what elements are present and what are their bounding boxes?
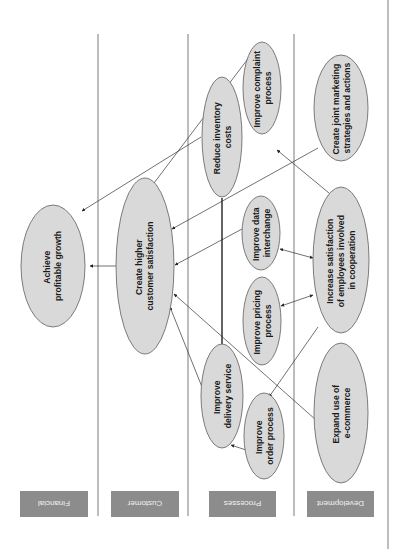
lane-label-text: Development xyxy=(316,499,364,508)
lane-label-text: Financial xyxy=(38,499,70,508)
node-achieve-growth: Achieve profitable growth xyxy=(21,205,85,327)
node-text-line: Improve xyxy=(254,420,264,454)
node-text-line: order process xyxy=(265,407,275,465)
node-improve-delivery: Improve delivery service xyxy=(201,344,243,448)
edge-employee-data xyxy=(280,249,313,258)
node-text-line: Create higher xyxy=(134,239,144,295)
node-improve-complaint: Improve complaint process xyxy=(243,42,281,134)
svg-text:Expand use of e-commerce: Expand use of e-commerce xyxy=(331,382,352,443)
svg-text:Create joint marketing s: Create joint marketing strategies and ac… xyxy=(331,61,352,154)
node-text-line: Create joint marketing xyxy=(331,64,341,155)
lane-label-text: Processes xyxy=(224,499,261,508)
node-joint-marketing: Create joint marketing strategies and ac… xyxy=(314,55,368,161)
edge-order-to-delivery xyxy=(231,445,246,450)
node-text-line: e-commerce xyxy=(342,387,352,438)
node-customer-satisfaction: Create higher customer satisfaction xyxy=(116,178,174,354)
edge-employee-pricing xyxy=(281,295,313,306)
node-text-line: Improve xyxy=(212,380,222,414)
node-text-line: Improve data xyxy=(251,207,261,261)
node-text-line: profitable growth xyxy=(53,231,63,301)
node-text-line: strategies and actions xyxy=(342,62,352,153)
node-ecommerce: Expand use of e-commerce xyxy=(314,343,368,483)
node-text-line: Achieve xyxy=(42,250,52,283)
node-text-line: Improve pricing xyxy=(252,290,262,354)
lane-label-processes: Processes xyxy=(209,491,276,517)
edge-delivery-to-customer xyxy=(170,307,202,387)
lane-label-customer: Customer xyxy=(111,491,179,517)
node-reduce-inventory: Reduce inventory costs xyxy=(202,77,242,197)
node-text-line: in cooperation xyxy=(347,230,357,289)
lane-label-financial: Financial xyxy=(20,491,88,517)
node-text-line: delivery service xyxy=(223,364,233,429)
node-text-line: Reduce inventory xyxy=(212,102,222,174)
lane-label-text: Customer xyxy=(127,499,162,508)
node-text-line: Expand use of xyxy=(331,385,341,444)
node-improve-data: Improve data interchange xyxy=(242,196,280,270)
node-text-line: Increase satisfaction xyxy=(325,219,335,304)
node-text-line: customer satisfaction xyxy=(145,222,155,311)
strategy-map-diagram: Achieve profitable growth Create higher … xyxy=(0,0,398,549)
node-text-line: costs xyxy=(223,126,233,149)
node-text-line: of employees involved xyxy=(336,215,346,307)
svg-text:Improve data interchange: Improve data interchange xyxy=(251,205,272,261)
node-employee-satisfaction: Increase satisfaction of employees invol… xyxy=(313,187,369,333)
node-text-line: process xyxy=(263,304,273,337)
node-text-line: process xyxy=(263,71,273,104)
lane-label-development: Development xyxy=(307,491,374,517)
node-text-line: Improve complaint xyxy=(252,51,262,128)
node-improve-order: Improve order process xyxy=(244,393,284,479)
edge-data-to-customer xyxy=(175,229,242,265)
node-improve-pricing: Improve pricing process xyxy=(243,277,281,365)
node-text-line: interchange xyxy=(262,208,272,257)
